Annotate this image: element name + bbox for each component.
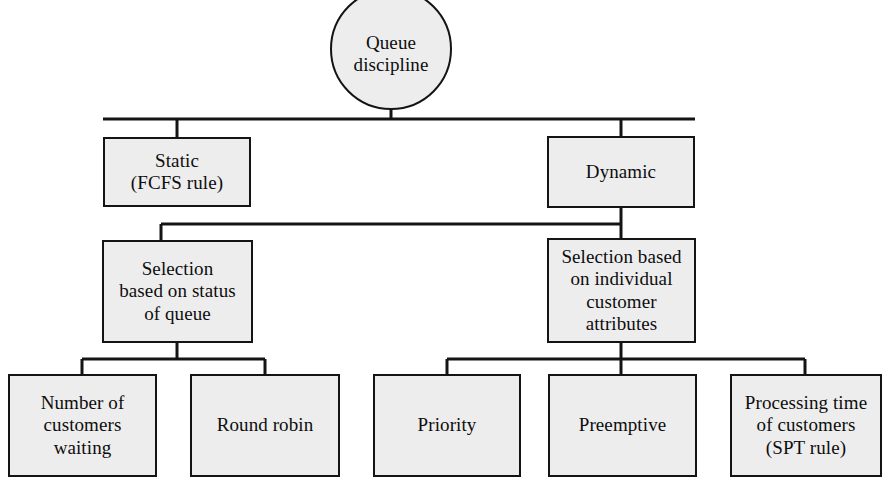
node-preemptive[interactable]: Preemptive (548, 374, 697, 477)
node-selection-status-of-queue-label: Selection based on status of queue (104, 258, 251, 325)
node-number-of-customers-waiting-label: Number of customers waiting (10, 392, 155, 459)
node-processing-time-of-customers-label: Processing time of customers (SPT rule) (732, 392, 880, 459)
node-dynamic-label: Dynamic (549, 161, 693, 183)
node-selection-customer-attributes-label: Selection based on individual customer a… (549, 246, 694, 336)
node-dynamic[interactable]: Dynamic (547, 136, 695, 208)
node-priority[interactable]: Priority (373, 374, 521, 477)
node-processing-time-of-customers[interactable]: Processing time of customers (SPT rule) (730, 374, 882, 477)
node-round-robin[interactable]: Round robin (190, 374, 340, 477)
node-priority-label: Priority (375, 414, 519, 436)
node-queue-discipline-label: Queue discipline (332, 22, 450, 77)
node-selection-customer-attributes[interactable]: Selection based on individual customer a… (547, 238, 696, 343)
node-number-of-customers-waiting[interactable]: Number of customers waiting (8, 374, 157, 477)
node-static[interactable]: Static (FCFS rule) (103, 137, 251, 207)
node-round-robin-label: Round robin (192, 414, 338, 436)
node-preemptive-label: Preemptive (550, 414, 695, 436)
node-static-label: Static (FCFS rule) (105, 150, 249, 195)
node-selection-status-of-queue[interactable]: Selection based on status of queue (102, 240, 253, 343)
